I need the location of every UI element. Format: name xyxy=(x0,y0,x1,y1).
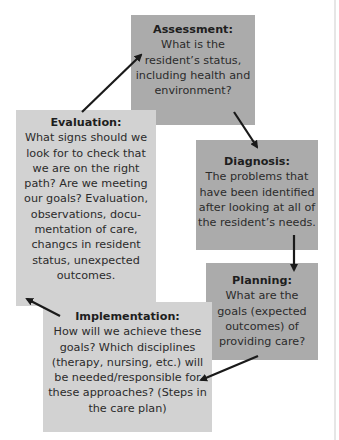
arrow-implementation-to-evaluation xyxy=(27,299,60,316)
arrow-evaluation-to-assessment xyxy=(82,55,141,112)
arrows-layer xyxy=(0,0,339,440)
arrow-planning-to-implementation xyxy=(201,356,258,380)
arrow-assessment-to-diagnosis xyxy=(234,112,257,147)
